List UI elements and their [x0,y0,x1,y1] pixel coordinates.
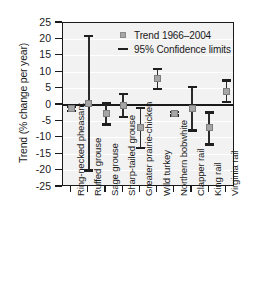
y-axis-tick [55,136,62,137]
x-axis-tick [173,186,174,192]
trend-marker [223,88,230,95]
error-bar-cap-upper [222,79,231,81]
error-bar-cap-upper [153,68,162,70]
y-axis-tick [55,120,62,121]
x-axis-tick [208,186,209,192]
x-axis-category-label: Virginia rail [229,151,240,196]
x-axis-tick [156,186,157,192]
y-axis-tick-label: 15 [39,49,51,60]
y-axis-tick-label: 20 [39,33,51,44]
trend-marker [154,75,161,82]
y-axis-tick [55,38,62,39]
x-axis-tick [190,186,191,192]
error-bar-cap-upper [205,111,214,113]
x-axis-category-label: Greater prairie-chicken [143,102,154,196]
y-axis-tick-label: 10 [39,66,51,77]
legend: Trend 1966–2004 95% Confidence limits [112,26,230,59]
error-bar-cap-upper [84,35,93,37]
trend-marker [206,124,213,131]
y-axis-tick-label: -25 [36,181,51,192]
y-axis-tick [55,54,62,55]
y-axis-tick-label: -15 [36,148,51,159]
x-axis-tick [70,186,71,192]
y-axis-tick [55,21,62,22]
y-axis-tick [55,71,62,72]
y-axis-tick-label: 5 [45,82,51,93]
error-bar-cap-lower [102,123,111,125]
x-axis-category-label: Sharp-tailed grouse [126,115,137,196]
legend-line-icon [115,48,131,51]
y-axis-tick [55,185,62,186]
x-axis-category-label: Wild turkey [161,150,172,196]
y-axis-tick [55,153,62,154]
y-axis-tick-label: -5 [42,115,51,126]
y-axis-title: Trend (% change per year) [17,18,29,188]
x-axis-tick [87,186,88,192]
x-axis-tick [104,186,105,192]
error-bar-cap-lower [153,88,162,90]
y-axis-tick [55,103,62,104]
legend-square-icon [115,32,131,38]
trend-marker [85,100,92,107]
legend-label-trend: Trend 1966–2004 [131,30,211,41]
trend-marker [189,105,196,112]
trend-marker [171,110,178,117]
y-axis-tick-label: -10 [36,131,51,142]
x-axis-tick [122,186,123,192]
error-bar-cap-upper [102,102,111,104]
y-axis-tick-label: 25 [39,17,51,28]
y-axis-tick-label: 0 [45,99,51,110]
x-axis-category-label: Sage grouse [109,143,120,196]
x-axis-category-label: Northern bobwhite [178,120,189,196]
x-axis-tick [225,186,226,192]
legend-item-confidence: 95% Confidence limits [115,42,228,56]
trend-marker [120,102,127,109]
x-axis-category-label: Ruffed grouse [92,138,103,196]
error-bar-cap-lower [205,143,214,145]
trend-marker [103,110,110,117]
x-axis-tick [139,186,140,192]
y-axis-tick [55,169,62,170]
legend-label-confidence: 95% Confidence limits [131,44,231,55]
y-axis-tick [55,87,62,88]
legend-item-trend: Trend 1966–2004 [115,28,228,42]
x-axis-category-label: Clapper rail [195,149,206,196]
x-axis-category-label: Ring-necked pheasant [75,103,86,196]
error-bar-cap-lower [222,101,231,103]
error-bar-cap-upper [119,93,128,95]
trend-chart-figure: Trend (% change per year) 2520151050-5-1… [0,0,257,307]
y-axis-tick-label: -20 [36,164,51,175]
x-axis-category-label: King rail [212,163,223,196]
error-bar-cap-upper [188,86,197,88]
